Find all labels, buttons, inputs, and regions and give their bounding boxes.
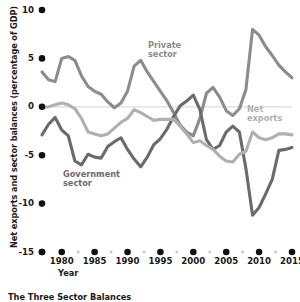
x-tick-dot — [157, 249, 164, 256]
government-sector-label-line2: sector — [63, 179, 120, 188]
x-tick-dot — [223, 249, 230, 256]
net-exports-label: Netexports — [247, 105, 282, 123]
net-exports-label-line2: exports — [247, 114, 282, 123]
y-tick-dot — [39, 200, 46, 207]
government-sector-label: Governmentsector — [63, 170, 120, 188]
x-minor-tick-dot — [241, 251, 244, 254]
x-axis-origin-dot — [39, 249, 46, 256]
x-tick-dot — [256, 249, 263, 256]
private-sector-label: Privatesector — [148, 41, 181, 59]
x-minor-tick-dot — [274, 251, 277, 254]
x-tick-dot — [190, 249, 197, 256]
y-tick-dot — [39, 55, 46, 62]
private-sector-label-line2: sector — [148, 50, 181, 59]
x-tick-dot — [124, 249, 131, 256]
x-minor-tick-dot — [77, 251, 80, 254]
figure-caption: The Three Sector Balances — [8, 292, 300, 302]
y-tick-dot — [39, 7, 46, 14]
x-tick-dot — [91, 249, 98, 256]
x-minor-tick-dot — [110, 251, 113, 254]
x-tick-dot — [58, 249, 65, 256]
x-minor-tick-dot — [208, 251, 211, 254]
x-tick-dot — [289, 249, 296, 256]
y-tick-dot — [39, 104, 46, 111]
chart-figure: Net exports and sector balances (percent… — [0, 0, 300, 302]
y-tick-dot — [39, 152, 46, 159]
x-minor-tick-dot — [175, 251, 178, 254]
x-axis-tick-marks — [39, 249, 300, 256]
x-minor-tick-dot — [142, 251, 145, 254]
